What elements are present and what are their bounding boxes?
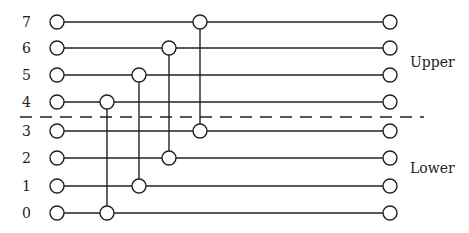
- junction-node-3: [193, 124, 207, 138]
- output-node-4: [383, 95, 397, 109]
- input-node-0: [50, 206, 64, 220]
- output-node-1: [383, 179, 397, 193]
- input-node-6: [50, 41, 64, 55]
- row-label: 1: [22, 178, 31, 194]
- row-label: 7: [22, 14, 31, 30]
- row-label: 4: [22, 94, 31, 110]
- row-label: 2: [22, 150, 31, 166]
- row-label: 3: [22, 123, 31, 139]
- junction-node-0: [100, 206, 114, 220]
- input-node-4: [50, 95, 64, 109]
- lower-label: Lower: [410, 160, 455, 176]
- junction-node-6: [162, 41, 176, 55]
- input-node-5: [50, 68, 64, 82]
- output-node-5: [383, 68, 397, 82]
- row-label: 5: [22, 67, 31, 83]
- output-node-2: [383, 151, 397, 165]
- output-node-0: [383, 206, 397, 220]
- butterfly-connection-diagram: 76543210 Upper Lower: [0, 0, 469, 233]
- output-node-6: [383, 41, 397, 55]
- junction-node-7: [193, 15, 207, 29]
- input-node-1: [50, 179, 64, 193]
- output-node-3: [383, 124, 397, 138]
- input-node-7: [50, 15, 64, 29]
- upper-label: Upper: [410, 54, 455, 70]
- row-label: 0: [22, 205, 31, 221]
- junction-node-4: [100, 95, 114, 109]
- junction-node-2: [162, 151, 176, 165]
- output-node-7: [383, 15, 397, 29]
- row-label: 6: [22, 40, 31, 56]
- input-node-2: [50, 151, 64, 165]
- input-node-3: [50, 124, 64, 138]
- junction-node-1: [132, 179, 146, 193]
- junction-node-5: [132, 68, 146, 82]
